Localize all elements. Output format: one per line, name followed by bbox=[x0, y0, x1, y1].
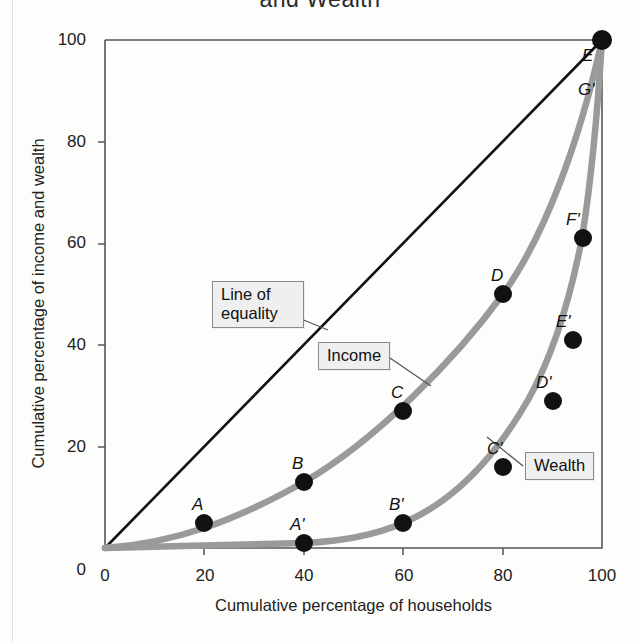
callout-line-of-equality: Line of equality bbox=[212, 281, 304, 328]
marker-B-prime bbox=[394, 514, 412, 532]
lorenz-curve-plot bbox=[0, 0, 640, 643]
x-axis-ticks bbox=[204, 548, 503, 555]
marker-E bbox=[592, 30, 612, 50]
marker-B bbox=[295, 473, 313, 491]
chart-page: and Wealth Cumulative percentage of inco… bbox=[0, 0, 640, 643]
marker-C-prime bbox=[494, 458, 512, 476]
point-label-A-prime: A' bbox=[290, 515, 305, 535]
marker-D bbox=[494, 285, 512, 303]
point-label-F-prime: F' bbox=[566, 210, 580, 230]
point-label-E: E bbox=[582, 46, 593, 66]
y-axis-ticks bbox=[98, 142, 105, 447]
marker-C bbox=[394, 402, 412, 420]
point-label-B: B bbox=[292, 454, 303, 474]
point-label-C: C bbox=[391, 383, 403, 403]
marker-A-prime bbox=[295, 534, 313, 552]
point-label-D-prime: D' bbox=[536, 373, 552, 393]
point-label-G-prime: G' bbox=[578, 80, 594, 100]
marker-A bbox=[195, 514, 213, 532]
marker-E-prime bbox=[564, 331, 582, 349]
point-label-C-prime: C' bbox=[487, 439, 503, 459]
marker-D-prime bbox=[544, 392, 562, 410]
point-label-B-prime: B' bbox=[389, 495, 404, 515]
marker-F-prime bbox=[574, 229, 592, 247]
callout-income: Income bbox=[318, 342, 390, 370]
callout-wealth: Wealth bbox=[525, 452, 594, 480]
point-label-D: D bbox=[491, 266, 503, 286]
point-label-E-prime: E' bbox=[556, 312, 571, 332]
point-label-A: A bbox=[192, 495, 203, 515]
